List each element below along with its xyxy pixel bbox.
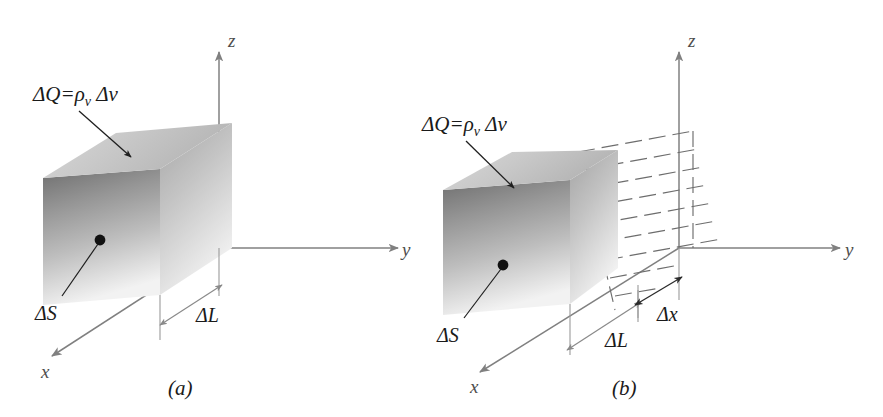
- charge-label-b: ΔQ=ρv Δv: [421, 112, 508, 139]
- panel-a: ΔQ=ρv Δv ΔS ΔL z y x (a): [32, 30, 411, 400]
- x-axis-label-a: x: [40, 361, 50, 382]
- panel-b: ΔQ=ρv Δv ΔS ΔL Δx z y x (b): [421, 30, 854, 400]
- charge-label-b-tail: Δv: [480, 112, 508, 136]
- surface-label-a: ΔS: [34, 302, 57, 324]
- caption-a: (a): [168, 376, 193, 400]
- charge-label-a-tail: Δv: [91, 82, 119, 106]
- delta-L-label-a: ΔL: [195, 304, 219, 326]
- charge-label-a-main: ΔQ=ρ: [32, 82, 85, 106]
- z-axis-label-a: z: [227, 30, 236, 51]
- surface-point-b: [498, 260, 509, 271]
- x-axis-label-b: x: [469, 376, 479, 397]
- surface-label-b: ΔS: [436, 324, 459, 346]
- box-front-face-b: [443, 180, 570, 315]
- charge-label-a: ΔQ=ρv Δv: [32, 82, 119, 109]
- z-axis-label-b: z: [687, 30, 696, 51]
- diagram-canvas: ΔQ=ρv Δv ΔS ΔL z y x (a): [0, 0, 883, 417]
- surface-point-a: [95, 235, 106, 246]
- y-axis-label-b: y: [843, 239, 854, 260]
- delta-x-label-b: Δx: [656, 303, 678, 325]
- delta-L-arrow-b: [567, 302, 641, 350]
- figure-root: ΔQ=ρv Δv ΔS ΔL z y x (a): [0, 0, 883, 417]
- caption-b: (b): [612, 376, 637, 400]
- y-axis-label-a: y: [400, 239, 411, 260]
- charge-label-b-main: ΔQ=ρ: [421, 112, 474, 136]
- delta-L-label-b: ΔL: [604, 329, 628, 351]
